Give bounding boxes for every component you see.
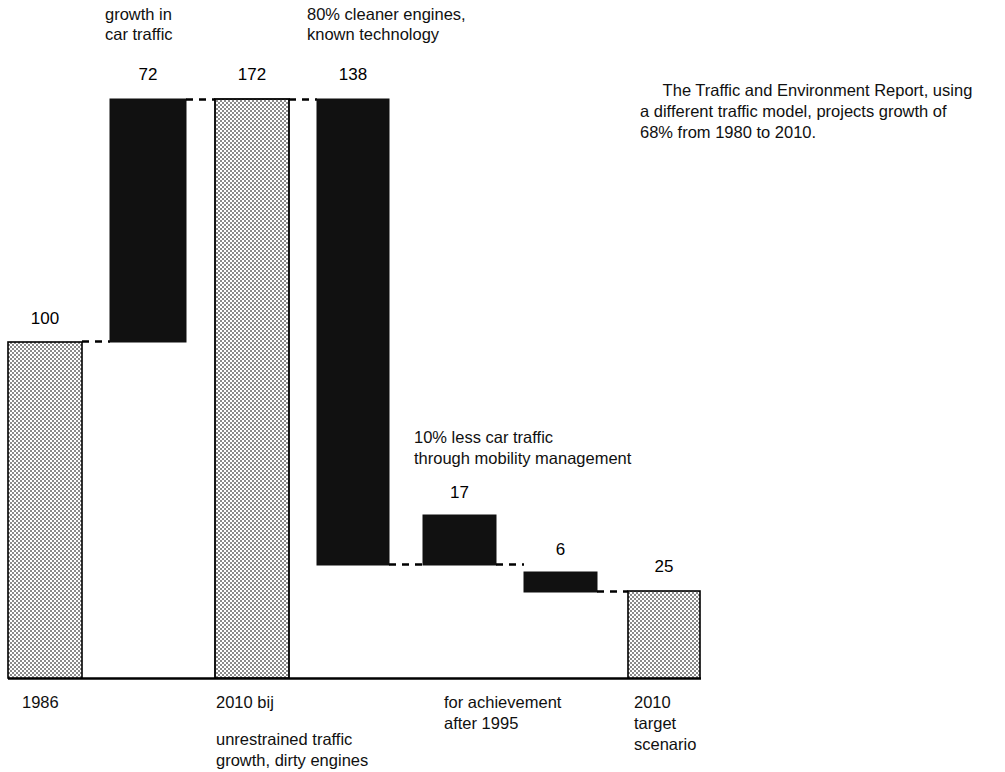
annotation-engines-line2: known technology xyxy=(307,24,439,45)
value-label-bar-target: 25 xyxy=(628,558,700,576)
value-label-bar-mobility: 17 xyxy=(423,484,496,502)
bar-1986-100 xyxy=(8,342,82,678)
value-label-bar-engines: 138 xyxy=(317,66,389,84)
axis-label-after-1995: after 1995 xyxy=(444,713,518,734)
axis-label-target: target xyxy=(634,713,676,734)
annotation-growth-line1: growth in xyxy=(105,4,172,25)
value-label-bar-growth: 72 xyxy=(110,66,186,84)
axis-label-unrestrained-traffic: unrestrained traffic xyxy=(216,729,352,750)
bar-achievement-6 xyxy=(524,572,597,592)
axis-label-dirty-engines: growth, dirty engines xyxy=(216,750,368,771)
annotation-growth-line2: car traffic xyxy=(105,24,173,45)
annotation-mobility-line2: through mobility management xyxy=(414,448,631,469)
bar-mobility-17 xyxy=(423,515,496,565)
axis-label-scenario: scenario xyxy=(634,734,696,755)
bar-cleaner-engines-138 xyxy=(317,99,389,565)
value-label-bar-unrestrained: 172 xyxy=(215,66,289,84)
annotation-engines-line1: 80% cleaner engines, xyxy=(307,4,466,25)
annotation-mobility-line1: 10% less car traffic xyxy=(414,427,553,448)
report-note-line2: a different traffic model, projects grow… xyxy=(640,101,947,122)
axis-label-1986: 1986 xyxy=(22,692,59,713)
value-label-bar-achievement: 6 xyxy=(524,541,597,559)
bar-2010-unrestrained-172 xyxy=(215,99,289,678)
waterfall-chart: 100 72 172 138 17 6 25 growth in car tra… xyxy=(0,0,1005,772)
value-label-bar-1986: 100 xyxy=(8,310,82,328)
bar-2010-target-25 xyxy=(628,591,700,678)
report-note-line3: 68% from 1980 to 2010. xyxy=(640,122,816,143)
report-note-line1: The Traffic and Environment Report, usin… xyxy=(640,80,972,101)
bar-growth-72 xyxy=(110,99,186,342)
axis-label-for-achievement: for achievement xyxy=(444,692,561,713)
axis-label-2010-bij: 2010 bij xyxy=(216,692,274,713)
axis-label-2010-target-year: 2010 xyxy=(634,692,671,713)
